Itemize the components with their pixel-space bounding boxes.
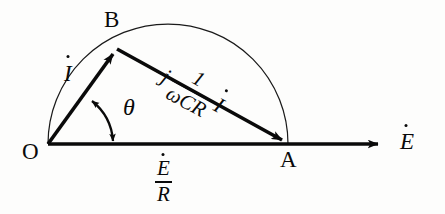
dot-accent-icon xyxy=(66,55,69,58)
voltage-axis-label: E xyxy=(400,130,414,153)
point-label-a: A xyxy=(280,148,297,171)
dot-accent-icon xyxy=(224,89,228,93)
current-phasor-line xyxy=(48,54,113,144)
current-symbol-text: I xyxy=(64,61,72,86)
dot-accent-icon xyxy=(161,153,164,156)
phasor-diagram-figure: O B A θ I E E R −j 1 ωCR I xyxy=(0,0,445,214)
dot-accent-icon xyxy=(405,124,408,127)
diagram-canvas xyxy=(0,0,445,214)
voltage-symbol-text: E xyxy=(400,129,414,154)
point-label-b: B xyxy=(104,8,119,31)
fraction-denominator: R xyxy=(155,184,172,206)
current-symbol: I xyxy=(64,62,72,85)
point-label-o: O xyxy=(22,140,39,163)
fraction-numerator-text: E xyxy=(157,156,170,180)
fraction-numerator: E xyxy=(155,158,172,180)
current-phasor-label: I xyxy=(64,62,72,85)
resistive-fraction: E R xyxy=(155,158,172,206)
resistive-current-label: E R xyxy=(155,158,172,206)
angle-arc xyxy=(92,101,113,141)
voltage-symbol: E xyxy=(400,130,414,153)
angle-theta-label: θ xyxy=(123,95,135,119)
